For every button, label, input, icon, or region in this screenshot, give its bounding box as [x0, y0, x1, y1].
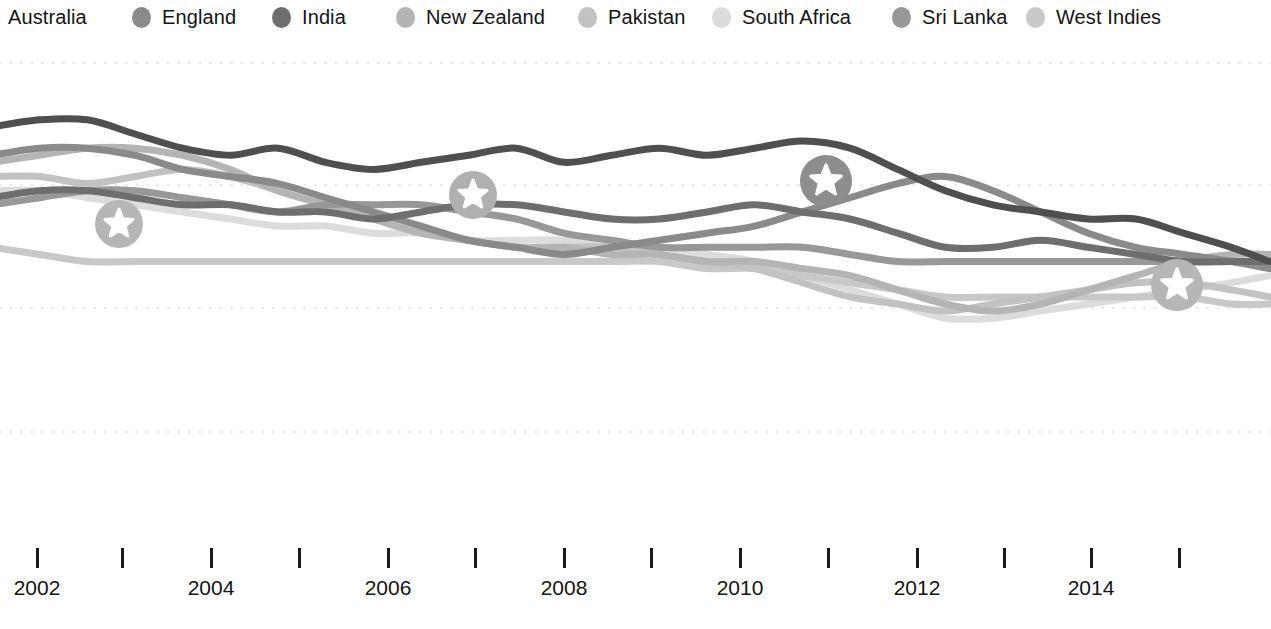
x-axis-tick-label: 2002 [14, 576, 61, 600]
legend-item-label: Pakistan [608, 0, 686, 34]
legend-item-australia[interactable]: Australia [8, 0, 87, 34]
x-axis-tick [1003, 548, 1006, 568]
legend-item-south-africa[interactable]: South Africa [712, 0, 851, 34]
x-axis-tick [827, 548, 830, 568]
legend-swatch-icon [272, 7, 291, 28]
x-axis-tick-label: 2010 [717, 576, 764, 600]
series-lines [0, 118, 1269, 319]
x-axis-tick [121, 548, 124, 568]
x-axis-tick-label: 2012 [894, 576, 941, 600]
x-axis-tick-label: 2014 [1068, 576, 1115, 600]
chart-legend: AustraliaEnglandIndiaNew ZealandPakistan… [0, 0, 1271, 34]
legend-item-label: West Indies [1056, 0, 1161, 34]
x-axis-tick [739, 548, 742, 568]
x-axis-tick [1178, 548, 1181, 568]
x-axis: 2002200420062008201020122014 [0, 514, 1271, 629]
x-axis-tick-label: 2006 [365, 576, 412, 600]
legend-swatch-icon [892, 7, 911, 28]
x-axis-tick [650, 548, 653, 568]
legend-item-label: Sri Lanka [922, 0, 1007, 34]
legend-item-label: India [302, 0, 346, 34]
legend-swatch-icon [578, 7, 597, 28]
legend-item-new-zealand[interactable]: New Zealand [396, 0, 545, 34]
legend-item-pakistan[interactable]: Pakistan [578, 0, 686, 34]
legend-swatch-icon [1026, 7, 1045, 28]
x-axis-tick [298, 548, 301, 568]
legend-item-label: New Zealand [426, 0, 545, 34]
legend-item-label: Australia [8, 0, 87, 34]
legend-item-west-indies[interactable]: West Indies [1026, 0, 1161, 34]
x-axis-tick [474, 548, 477, 568]
x-axis-tick-label: 2008 [541, 576, 588, 600]
legend-swatch-icon [132, 7, 151, 28]
legend-item-label: South Africa [742, 0, 851, 34]
chart-plot-area [0, 34, 1271, 514]
x-axis-tick [387, 548, 390, 568]
series-line-australia[interactable] [0, 118, 1269, 261]
line-chart-svg [0, 34, 1271, 514]
legend-swatch-icon [396, 7, 415, 28]
star-marker-1[interactable] [95, 200, 143, 248]
star-marker-3[interactable] [800, 155, 852, 207]
legend-swatch-icon [712, 7, 731, 28]
star-marker-2[interactable] [449, 171, 497, 219]
x-axis-tick [210, 548, 213, 568]
x-axis-tick [36, 548, 39, 568]
x-axis-tick [916, 548, 919, 568]
legend-item-label: England [162, 0, 236, 34]
chart-page: AustraliaEnglandIndiaNew ZealandPakistan… [0, 0, 1271, 629]
x-axis-tick [563, 548, 566, 568]
x-axis-tick-label: 2004 [188, 576, 235, 600]
legend-item-sri-lanka[interactable]: Sri Lanka [892, 0, 1007, 34]
star-marker-4[interactable] [1151, 259, 1203, 311]
legend-item-england[interactable]: England [132, 0, 236, 34]
x-axis-tick [1090, 548, 1093, 568]
legend-item-india[interactable]: India [272, 0, 346, 34]
